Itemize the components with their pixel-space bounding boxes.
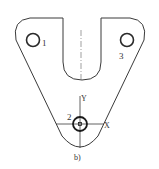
x-axis-label: X	[104, 121, 110, 130]
part-drawing: 1 3 2 Y X b)	[0, 0, 159, 169]
hole-3-label: 3	[119, 51, 124, 61]
figure-caption: b)	[74, 153, 81, 162]
hole-2-label: 2	[67, 112, 72, 122]
hole-1-label: 1	[42, 38, 47, 48]
hole-3	[121, 34, 134, 47]
y-axis-label: Y	[81, 94, 87, 103]
hole-1	[27, 34, 40, 47]
